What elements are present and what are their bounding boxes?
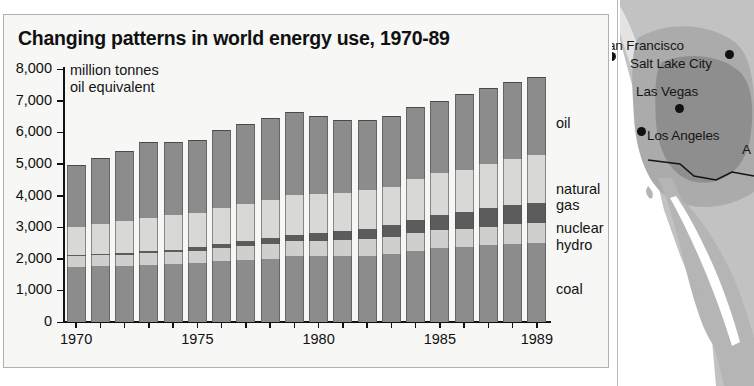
bar-segment-nuclear-1975 (188, 247, 207, 250)
bar-segment-coal-1983 (382, 254, 401, 322)
x-tick-1987 (488, 322, 490, 328)
bar-1986 (455, 94, 474, 322)
bar-segment-coal-1977 (236, 260, 255, 322)
bar-segment-hydro-1986 (455, 229, 474, 248)
bar-segment-hydro-1988 (503, 224, 522, 243)
bar-1977 (236, 124, 255, 322)
y-tick-7000 (57, 100, 64, 102)
bar-segment-natural_gas-1975 (188, 213, 207, 247)
map-dot-las-vegas (675, 104, 684, 113)
bar-segment-oil-1970 (67, 165, 86, 227)
bar-segment-oil-1981 (333, 120, 352, 193)
bar-segment-oil-1984 (406, 107, 425, 179)
energy-chart-panel: Changing patterns in world energy use, 1… (3, 14, 609, 368)
bar-1980 (309, 116, 328, 322)
bar-segment-natural_gas-1986 (455, 170, 474, 212)
map-label-las-vegas: Las Vegas (636, 84, 698, 99)
bar-segment-oil-1988 (503, 82, 522, 159)
bar-segment-natural_gas-1971 (91, 224, 110, 254)
x-tick-1972 (124, 322, 126, 328)
bar-segment-hydro-1975 (188, 251, 207, 264)
y-tick-label-5000: 5,000 (4, 155, 52, 171)
bar-segment-hydro-1976 (212, 248, 231, 261)
bar-segment-hydro-1971 (91, 255, 110, 266)
x-tick-1986 (463, 322, 465, 328)
bar-segment-natural_gas-1983 (382, 187, 401, 226)
x-tick-1983 (391, 322, 393, 328)
map-dot-san-francisco (612, 52, 616, 61)
x-tick-label-1975: 1975 (169, 331, 225, 347)
bar-segment-coal-1972 (115, 266, 134, 322)
bar-segment-natural_gas-1984 (406, 179, 425, 220)
bar-segment-hydro-1985 (430, 230, 449, 248)
x-tick-label-1985: 1985 (412, 331, 468, 347)
bar-segment-coal-1975 (188, 263, 207, 322)
bar-segment-nuclear-1978 (261, 238, 280, 244)
x-tick-1973 (148, 322, 150, 328)
y-tick-0 (57, 322, 64, 324)
bar-segment-natural_gas-1981 (333, 193, 352, 232)
bar-segment-coal-1979 (285, 256, 304, 322)
bar-segment-natural_gas-1987 (479, 164, 498, 208)
map-divider (617, 0, 618, 386)
bar-segment-nuclear-1976 (212, 244, 231, 248)
bar-segment-oil-1974 (164, 142, 183, 216)
y-tick-3000 (57, 227, 64, 229)
bar-segment-natural_gas-1977 (236, 204, 255, 241)
bar-segment-coal-1976 (212, 261, 231, 322)
bar-segment-nuclear-1982 (358, 229, 377, 239)
bar-1972 (115, 151, 134, 322)
bar-1973 (139, 142, 158, 322)
map-panel: San Francisco Salt Lake City Las Vegas L… (612, 0, 754, 386)
bar-segment-nuclear-1986 (455, 212, 474, 229)
bar-segment-natural_gas-1976 (212, 208, 231, 244)
bar-segment-coal-1987 (479, 245, 498, 322)
bar-1974 (164, 142, 183, 322)
bar-segment-nuclear-1973 (139, 251, 158, 253)
bar-segment-coal-1982 (358, 256, 377, 322)
bar-segment-coal-1978 (261, 259, 280, 322)
bar-segment-oil-1973 (139, 142, 158, 218)
bar-segment-oil-1987 (479, 88, 498, 164)
map-label-salt-lake-city: Salt Lake City (630, 56, 712, 71)
x-tick-label-1980: 1980 (291, 331, 347, 347)
y-tick-label-8000: 8,000 (4, 60, 52, 76)
bar-segment-coal-1984 (406, 251, 425, 322)
bar-segment-hydro-1987 (479, 227, 498, 246)
bar-segment-coal-1970 (67, 267, 86, 322)
bar-segment-nuclear-1987 (479, 208, 498, 226)
bar-1976 (212, 130, 231, 322)
x-tick-1974 (172, 322, 174, 328)
bar-segment-oil-1976 (212, 130, 231, 208)
legend-label-coal: coal (556, 281, 583, 297)
legend-label-natural-gas-2: gas (556, 197, 579, 213)
bar-segment-hydro-1973 (139, 253, 158, 265)
bar-segment-nuclear-1981 (333, 231, 352, 240)
bar-segment-nuclear-1983 (382, 225, 401, 236)
x-tick-1989 (536, 322, 538, 328)
bar-segment-oil-1986 (455, 94, 474, 170)
bar-segment-nuclear-1977 (236, 241, 255, 246)
x-tick-1982 (366, 322, 368, 328)
y-tick-label-6000: 6,000 (4, 123, 52, 139)
bar-segment-coal-1986 (455, 247, 474, 322)
map-label-san-francisco: San Francisco (612, 38, 684, 53)
bar-segment-oil-1985 (430, 101, 449, 174)
bar-segment-natural_gas-1974 (164, 215, 183, 249)
bar-segment-coal-1980 (309, 256, 328, 322)
y-tick-6000 (57, 132, 64, 134)
bar-segment-nuclear-1970 (67, 255, 86, 256)
bar-segment-hydro-1989 (527, 223, 546, 243)
x-tick-1975 (197, 322, 199, 328)
bar-segment-natural_gas-1988 (503, 159, 522, 205)
map-label-los-angeles: Los Angeles (647, 128, 719, 143)
bar-segment-coal-1973 (139, 265, 158, 322)
bar-segment-nuclear-1980 (309, 233, 328, 241)
bar-segment-coal-1981 (333, 256, 352, 322)
bar-segment-natural_gas-1989 (527, 155, 546, 203)
bar-segment-oil-1978 (261, 118, 280, 200)
bar-1983 (382, 116, 401, 322)
bar-1975 (188, 140, 207, 322)
bar-segment-hydro-1979 (285, 241, 304, 256)
bar-segment-nuclear-1979 (285, 235, 304, 242)
